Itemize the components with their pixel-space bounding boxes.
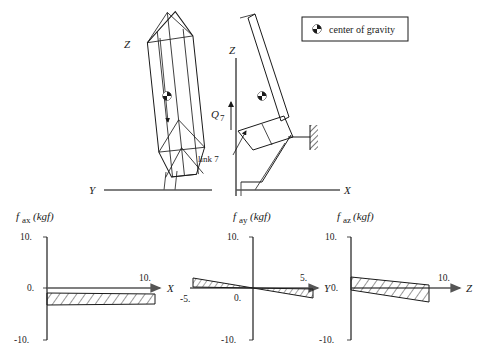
fax-x-axis-label: X: [166, 282, 175, 294]
fay-xtick-label-right: 5.: [300, 273, 307, 283]
fixed-ground-support: [288, 125, 318, 150]
right-cog-marker: [258, 92, 266, 100]
technical-figure: Z Y Z: [0, 0, 480, 362]
right-lower-member-a: [241, 135, 291, 182]
left-z-axis-line: [160, 38, 168, 122]
legend-cog-icon: [313, 25, 321, 33]
force-q7: Q 7: [211, 102, 231, 130]
left-base-post-1: [164, 172, 166, 190]
fay-xtick-label-left: -5.: [180, 294, 190, 304]
force-q7-label: Q: [211, 108, 219, 120]
left-y-axis-label: Y: [89, 184, 97, 196]
fay-title-unit: (kgf): [250, 210, 271, 223]
fay-plot: f ay (kgf) 10. 0. -10. -5. 5. Y: [180, 210, 332, 345]
fax-title-unit: (kgf): [33, 210, 54, 223]
fay-title: f: [233, 210, 238, 222]
fay-ytick-label-bot: -10.: [221, 335, 236, 345]
fax-ytick-label-bot: -10.: [14, 335, 29, 345]
right-boom-tip-line: [240, 14, 255, 18]
fax-band-fill: [47, 293, 155, 305]
left-view-linkage: Z Y: [89, 10, 212, 196]
fax-ytick-label-mid: 0.: [27, 283, 34, 293]
left-base-post-2: [175, 171, 177, 190]
force-q7-subscript: 7: [220, 113, 225, 123]
right-boom-outline: [248, 14, 289, 121]
fax-title-subscript: ax: [22, 215, 31, 225]
fax-xtick-label: 10.: [139, 273, 151, 283]
faz-plot: f az (kgf) 10. 0. -10. 10. Z: [319, 210, 473, 345]
figure-root: Z Y Z: [0, 0, 480, 362]
fax-plot: f ax (kgf) 10. 0. -10. 10. X: [14, 210, 175, 345]
faz-xtick-label: 10.: [438, 273, 450, 283]
fay-title-subscript: ay: [239, 215, 248, 225]
fay-ytick-label-mid: 0.: [234, 293, 241, 303]
right-link-inner-bar: [262, 124, 272, 145]
right-x-axis-label: X: [343, 184, 352, 196]
legend-label: center of gravity: [329, 24, 395, 35]
faz-title-unit: (kgf): [353, 210, 374, 223]
boom-base-edge: [172, 174, 197, 177]
fax-ytick-label-top: 10.: [20, 232, 32, 242]
fax-title: f: [16, 210, 21, 222]
faz-title-subscript: az: [343, 215, 351, 225]
boom-inner-edge-left: [157, 32, 172, 177]
faz-title: f: [337, 210, 342, 222]
fay-ytick-label-top: 10.: [227, 232, 239, 242]
left-cog-marker: [163, 92, 171, 100]
link7-leader-line: [233, 131, 246, 155]
faz-ytick-label-top: 10.: [325, 232, 337, 242]
faz-x-axis-label: Z: [466, 282, 473, 294]
right-lower-member-b: [255, 143, 285, 190]
legend-box: center of gravity: [302, 17, 408, 41]
faz-ytick-label-bot: -10.: [319, 335, 334, 345]
right-z-axis-label: Z: [229, 44, 236, 56]
left-z-axis-label: Z: [124, 38, 131, 50]
faz-ytick-label-mid: 0.: [331, 283, 338, 293]
link7-label: link 7: [198, 154, 219, 164]
